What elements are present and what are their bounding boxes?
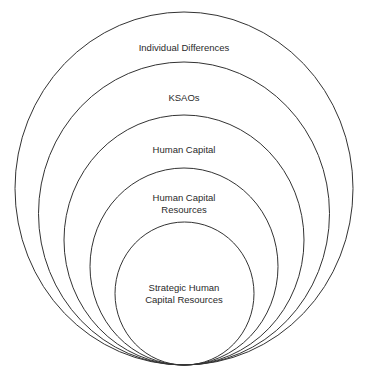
label-human-capital-resources-line1: Human Capital (84, 192, 284, 204)
label-strategic-hcr-line2: Capital Resources (84, 294, 284, 306)
label-strategic-hcr-line1: Strategic Human (84, 282, 284, 294)
circle-individual-differences (15, 12, 353, 365)
nested-circles-diagram (0, 0, 365, 373)
label-human-capital-resources-line2: Resources (84, 204, 284, 216)
label-ksaos: KSAOs (84, 92, 284, 104)
label-individual-differences: Individual Differences (84, 42, 284, 54)
label-human-capital: Human Capital (84, 144, 284, 156)
